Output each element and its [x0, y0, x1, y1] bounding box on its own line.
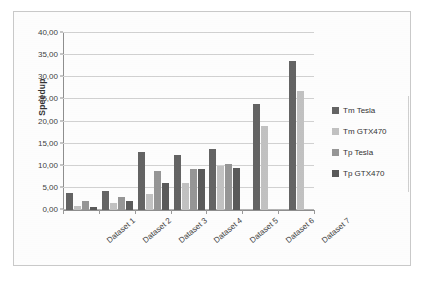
legend-swatch-icon	[332, 107, 339, 114]
x-axis-labels: Dataset 1Dataset 2Dataset 3Dataset 4Data…	[63, 210, 314, 270]
bar-group	[243, 33, 279, 210]
bar	[162, 183, 169, 210]
bar	[146, 194, 153, 210]
bar	[154, 171, 161, 210]
bar	[126, 201, 133, 210]
legend-label: Tm GTX470	[343, 127, 387, 136]
bar	[138, 152, 145, 210]
chart-legend: Tm TeslaTm GTX470Tp TeslaTp GTX470	[332, 100, 424, 184]
bar-group	[207, 33, 243, 210]
bar	[253, 104, 260, 210]
y-axis-tick-label: 5,00	[42, 182, 58, 191]
legend-swatch-icon	[332, 170, 339, 177]
y-axis-tick-mark	[60, 98, 63, 99]
bar	[225, 164, 232, 210]
legend-swatch-icon	[332, 149, 339, 156]
bar	[82, 201, 89, 210]
legend-item[interactable]: Tm GTX470	[332, 121, 424, 142]
y-axis-tick-mark	[60, 186, 63, 187]
x-axis-tick-mark	[314, 210, 315, 214]
plot-inner: 0,005,0010,0015,0020,0025,0030,0035,0040…	[63, 33, 314, 210]
y-axis-tick-label: 15,00	[38, 138, 58, 147]
x-axis-label: Dataset 3	[177, 216, 209, 245]
y-axis-tick-mark	[60, 76, 63, 77]
x-axis-label: Dataset 7	[320, 216, 352, 245]
bar	[198, 169, 205, 210]
y-axis-tick-label: 0,00	[42, 205, 58, 214]
legend-item[interactable]: Tm Tesla	[332, 100, 424, 121]
y-axis-tick-label: 10,00	[38, 160, 58, 169]
y-axis-tick-mark	[60, 164, 63, 165]
x-axis-label: Dataset 1	[105, 216, 137, 245]
legend-item[interactable]: Tp GTX470	[332, 163, 424, 184]
x-axis-label: Dataset 6	[284, 216, 316, 245]
bar	[190, 169, 197, 210]
legend-label: Tp GTX470	[343, 169, 384, 178]
x-axis-label: Dataset 4	[212, 216, 244, 245]
bar	[261, 126, 268, 210]
bar-group	[135, 33, 171, 210]
legend-swatch-icon	[332, 128, 339, 135]
bar	[217, 166, 224, 210]
y-axis-tick-label: 35,00	[38, 50, 58, 59]
y-axis-tick-label: 20,00	[38, 116, 58, 125]
x-axis-label: Dataset 5	[248, 216, 280, 245]
legend-label: Tp Tesla	[343, 148, 373, 157]
bar-group	[64, 33, 100, 210]
bar	[289, 61, 296, 210]
legend-label: Tm Tesla	[343, 106, 375, 115]
bar	[297, 91, 304, 210]
chart-container: Speedup 0,005,0010,0015,0020,0025,0030,0…	[13, 11, 411, 266]
y-axis-tick-mark	[60, 54, 63, 55]
y-axis-tick-mark	[60, 142, 63, 143]
x-axis-label: Dataset 2	[141, 216, 173, 245]
bar	[209, 149, 216, 210]
bar-group	[171, 33, 207, 210]
bar	[110, 203, 117, 210]
bar-group	[100, 33, 136, 210]
bar	[118, 197, 125, 210]
bar	[174, 155, 181, 210]
bar	[102, 191, 109, 210]
bar	[182, 183, 189, 210]
y-axis-tick-label: 30,00	[38, 72, 58, 81]
plot-area: 0,005,0010,0015,0020,0025,0030,0035,0040…	[63, 33, 314, 210]
legend-item[interactable]: Tp Tesla	[332, 142, 424, 163]
bars-layer	[64, 33, 314, 210]
y-axis-tick-label: 25,00	[38, 94, 58, 103]
bar-group	[278, 33, 314, 210]
y-axis-tick-label: 40,00	[38, 28, 58, 37]
y-axis-tick-mark	[60, 32, 63, 33]
bar	[233, 168, 240, 210]
y-axis-tick-mark	[60, 120, 63, 121]
bar	[66, 193, 73, 210]
